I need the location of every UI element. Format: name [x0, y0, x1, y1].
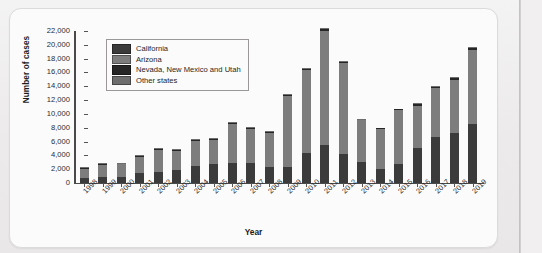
bar-segment: [357, 162, 366, 183]
bar-segment: [376, 129, 385, 169]
legend-label: Arizona: [136, 56, 162, 64]
bar-2013: [357, 119, 366, 183]
bar-segment: [98, 165, 107, 177]
bar-2016: [413, 103, 422, 183]
bar-segment: [339, 154, 348, 183]
legend-swatch-icon: [112, 65, 131, 75]
y-tick-label: 16,000: [24, 69, 70, 77]
y-tick-label: 18,000: [24, 55, 70, 63]
y-tick-label: 20,000: [24, 41, 70, 49]
y-tick-label: 14,000: [24, 82, 70, 90]
bar-2015: [394, 109, 403, 183]
y-tick-label: 8,000: [24, 124, 70, 132]
bar-segment: [172, 170, 181, 183]
bar-segment: [209, 140, 218, 165]
stacked-bar-chart: Number of cases 02,0004,0006,0008,00010,…: [10, 9, 497, 247]
bar-2017: [431, 86, 440, 183]
bar-segment: [413, 148, 422, 183]
y-tick-label: 10,000: [24, 110, 70, 118]
chart-legend: CaliforniaArizonaNevada, New Mexico and …: [106, 39, 249, 91]
bar-2014: [376, 128, 385, 183]
bar-segment: [265, 133, 274, 167]
y-tick-label: 6,000: [24, 138, 70, 146]
bar-segment: [357, 120, 366, 161]
legend-label: Nevada, New Mexico and Utah: [136, 66, 241, 74]
bar-segment: [320, 145, 329, 183]
bar-2010: [302, 68, 311, 183]
bar-2018: [450, 77, 459, 183]
y-tick-label: 12,000: [24, 96, 70, 104]
bar-segment: [339, 63, 348, 154]
bar-2005: [209, 138, 218, 183]
legend-label: Other states: [136, 77, 177, 85]
bar-segment: [154, 150, 163, 172]
bar-segment: [468, 124, 477, 183]
legend-swatch-icon: [112, 55, 131, 65]
figure-card: Number of cases 02,0004,0006,0008,00010,…: [9, 8, 498, 248]
legend-item: California: [112, 44, 241, 54]
bar-2009: [283, 94, 292, 183]
bar-segment: [228, 163, 237, 183]
bar-segment: [172, 151, 181, 170]
bar-2012: [339, 61, 348, 183]
bar-segment: [283, 96, 292, 167]
y-tick-label: 2,000: [24, 165, 70, 173]
y-tick-label: 22,000: [24, 27, 70, 35]
bar-2002: [154, 148, 163, 183]
bar-2011: [320, 28, 329, 183]
x-axis-title: Year: [10, 227, 497, 237]
bar-segment: [191, 166, 200, 183]
legend-label: California: [136, 45, 168, 53]
bar-segment: [191, 141, 200, 166]
y-axis-ticks: 02,0004,0006,0008,00010,00012,00014,0001…: [24, 9, 70, 247]
legend-item: Other states: [112, 75, 241, 85]
bar-segment: [246, 129, 255, 163]
right-margin-panel: [521, 0, 542, 253]
bar-segment: [394, 110, 403, 164]
bar-segment: [394, 164, 403, 183]
bar-segment: [431, 88, 440, 137]
bar-segment: [209, 164, 218, 183]
bar-2019: [468, 47, 477, 183]
bar-segment: [450, 133, 459, 183]
bar-segment: [117, 164, 126, 177]
bar-2003: [172, 149, 181, 183]
bar-1999: [98, 163, 107, 183]
bar-segment: [431, 137, 440, 183]
bar-2007: [246, 127, 255, 183]
y-tick-label: 4,000: [24, 152, 70, 160]
bar-2006: [228, 122, 237, 183]
bar-2001: [135, 155, 144, 183]
bar-segment: [320, 31, 329, 145]
bar-segment: [135, 157, 144, 174]
bar-segment: [468, 50, 477, 124]
bar-segment: [302, 70, 311, 153]
bar-segment: [246, 163, 255, 183]
bar-2008: [265, 131, 274, 183]
bar-segment: [450, 80, 459, 133]
bar-segment: [302, 153, 311, 183]
bar-segment: [413, 106, 422, 148]
bar-segment: [228, 124, 237, 163]
bar-segment: [283, 167, 292, 183]
legend-swatch-icon: [112, 44, 131, 54]
bar-2004: [191, 139, 200, 183]
legend-item: Arizona: [112, 54, 241, 64]
legend-swatch-icon: [112, 76, 131, 86]
legend-item: Nevada, New Mexico and Utah: [112, 65, 241, 75]
bar-2000: [117, 163, 126, 183]
bar-segment: [80, 169, 89, 179]
y-tick-label: 0: [24, 179, 70, 187]
